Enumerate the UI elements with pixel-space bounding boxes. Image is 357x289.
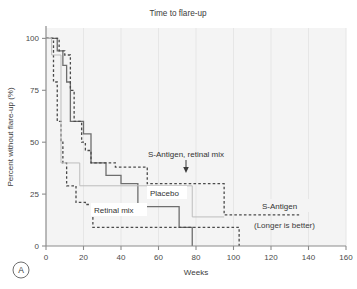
x-tick-label-0: 0 xyxy=(44,253,49,262)
series-label-placebo-group: Placebo xyxy=(147,186,187,199)
y-axis-label: Percent without flare-up (%) xyxy=(6,87,15,186)
y-tick-labels: 0255075100 xyxy=(26,34,40,251)
series-label-s-antigen-retinal-mix: S-Antigen, retinal mix xyxy=(148,150,224,159)
series-label-s-antigen-group: S-Antigen xyxy=(259,199,311,212)
x-tick-label-60: 60 xyxy=(154,253,163,262)
x-tick-label-100: 100 xyxy=(227,253,241,262)
figure-container: 020406080100120140160 0255075100 Time to… xyxy=(0,0,357,289)
time-to-flare-up-chart: 020406080100120140160 0255075100 Time to… xyxy=(0,0,357,289)
x-tick-labels: 020406080100120140160 xyxy=(44,253,353,262)
series-label-s-antigen: S-Antigen xyxy=(262,202,297,211)
y-tick-label-75: 75 xyxy=(30,86,39,95)
x-axis-label: Weeks xyxy=(184,268,208,277)
series-label-retinal-mix-group: Retinal mix xyxy=(91,203,147,216)
x-tick-label-80: 80 xyxy=(192,253,201,262)
y-tick-label-100: 100 xyxy=(26,34,40,43)
longer-is-better-note: (Longer is better) xyxy=(254,221,315,230)
panel-letter-badge: A xyxy=(13,262,29,278)
x-tick-label-140: 140 xyxy=(302,253,316,262)
x-tick-label-120: 120 xyxy=(264,253,278,262)
series-label-retinal-mix: Retinal mix xyxy=(94,206,134,215)
y-tick-label-50: 50 xyxy=(30,138,39,147)
x-tick-label-40: 40 xyxy=(117,253,126,262)
y-tick-label-25: 25 xyxy=(30,190,39,199)
x-tick-label-160: 160 xyxy=(339,253,353,262)
chart-title: Time to flare-up xyxy=(149,9,206,18)
y-tick-label-0: 0 xyxy=(35,242,40,251)
panel-letter: A xyxy=(18,265,24,275)
x-tick-label-20: 20 xyxy=(79,253,88,262)
series-label-placebo: Placebo xyxy=(150,189,179,198)
